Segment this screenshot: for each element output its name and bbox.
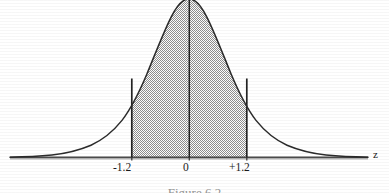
axis-tick-label-negative-1-2: -1.2: [113, 162, 131, 174]
figure-caption: Figure 6.2: [0, 186, 389, 193]
axis-tick-label-zero: 0: [183, 162, 189, 174]
normal-distribution-figure: -1.2 0 +1.2 z Figure 6.2: [0, 0, 389, 193]
axis-label-z: z: [373, 149, 378, 160]
distribution-chart-canvas: [0, 0, 389, 193]
axis-tick-label-positive-1-2: +1.2: [229, 162, 250, 174]
